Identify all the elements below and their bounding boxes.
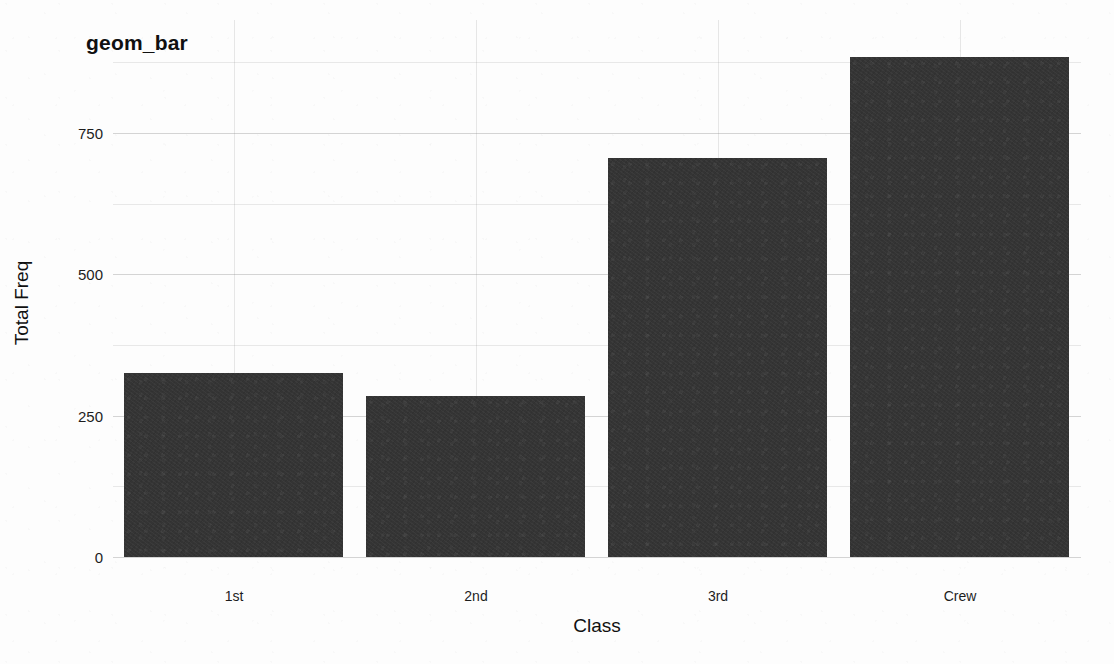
bar-crew	[850, 57, 1069, 557]
y-tick-label: 250	[78, 407, 103, 424]
x-tick-label: 1st	[225, 588, 244, 604]
x-tick-label: 3rd	[708, 588, 728, 604]
x-axis-tick-labels: 1st2nd3rdCrew	[113, 588, 1081, 608]
y-tick-label: 500	[78, 266, 103, 283]
y-tick-label: 750	[78, 125, 103, 142]
x-tick-label: 2nd	[464, 588, 487, 604]
y-axis-title: Total Freq	[11, 223, 33, 383]
gridline-major	[113, 557, 1081, 558]
plot-panel	[113, 20, 1081, 557]
bar-2nd	[366, 396, 585, 557]
y-axis-tick-labels: 0250500750	[55, 20, 103, 557]
bar-1st	[124, 373, 343, 557]
y-tick-label: 0	[95, 549, 103, 566]
chart-figure: geom_bar 0250500750 1st2nd3rdCrew Class …	[0, 0, 1114, 664]
bar-3rd	[608, 158, 827, 557]
x-tick-label: Crew	[944, 588, 977, 604]
x-axis-title: Class	[113, 615, 1081, 637]
